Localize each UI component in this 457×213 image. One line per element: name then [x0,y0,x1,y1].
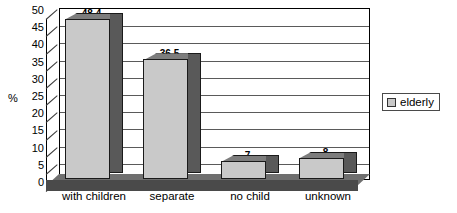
y-tick-45: 45 [32,22,44,33]
bar-front-with-children [65,19,110,180]
x-label-separate: separate [150,190,195,202]
plot-left-wall [46,8,60,193]
bar-with-children[interactable]: 48.4 [65,13,110,180]
y-tick-20: 20 [32,108,44,119]
y-tick-0: 0 [38,177,44,188]
depth-tick-25 [46,95,58,106]
y-tick-30: 30 [32,73,44,84]
x-label-no-child: no child [230,190,270,202]
legend-label-elderly: elderly [400,96,434,108]
x-axis-labels: with children separate no child unknown [46,190,376,210]
y-tick-50: 50 [32,5,44,16]
bar-side-unknown [344,152,357,174]
depth-tick-45 [46,27,58,38]
depth-tick-40 [46,44,58,55]
x-label-with-children: with children [62,190,126,202]
bar-unknown[interactable]: 8 [299,152,344,180]
bar-side-with-children [110,13,123,174]
depth-tick-20 [46,113,58,124]
bar-side-no-child [266,155,279,173]
y-tick-10: 10 [32,142,44,153]
y-axis-label: % [8,92,18,104]
depth-tick-15 [46,130,58,141]
y-tick-25: 25 [32,91,44,102]
bar-separate[interactable]: 36.5 [143,53,188,179]
bar-front-no-child [221,161,266,179]
depth-tick-5 [46,164,58,175]
y-tick-40: 40 [32,39,44,50]
x-label-unknown: unknown [305,190,351,202]
y-tick-35: 35 [32,56,44,67]
depth-tick-35 [46,61,58,72]
y-tick-15: 15 [32,125,44,136]
bar-chart: % 50 45 40 35 30 25 20 15 10 5 0 [0,0,457,213]
bar-front-separate [143,59,188,179]
y-axis-ticks: 50 45 40 35 30 25 20 15 10 5 0 [22,10,44,185]
bar-no-child[interactable]: 7 [221,155,266,179]
bar-side-separate [188,53,201,173]
depth-tick-50 [46,9,58,20]
depth-tick-10 [46,147,58,158]
plot-area: 48.4 36.5 7 8 [46,8,370,190]
bar-front-unknown [299,158,344,180]
y-tick-5: 5 [38,159,44,170]
depth-tick-30 [46,78,58,89]
legend-swatch-icon [387,98,396,107]
chart-legend[interactable]: elderly [382,93,440,111]
